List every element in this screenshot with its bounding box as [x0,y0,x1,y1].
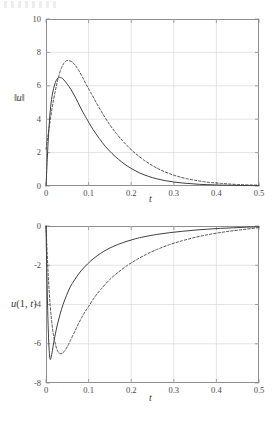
y-tick-label: 4 [19,114,41,124]
curves-top [0,0,277,210]
paren-close: ) [33,298,37,309]
y-tick-label: 10 [19,14,41,24]
x-tick-label: 0.1 [78,188,100,198]
x-tick-label: 0.5 [248,385,270,395]
x-tick-label: 0.3 [163,188,185,198]
x-axis-label-top: t [149,193,152,204]
y-axis-label-bottom: u(1, t) [11,298,37,309]
x-tick-label: 0 [35,385,57,395]
x-tick-label: 0.2 [120,188,142,198]
x-tick-label: 0.3 [163,385,185,395]
chart-panel-bottom: -8-6-4-2000.10.20.30.40.5 u(1, t) t [0,210,277,421]
curve-solid [46,77,259,186]
x-tick-label: 0.4 [205,385,227,395]
x-tick-label: 0 [35,188,57,198]
y-tick-label: 2 [19,147,41,157]
y-tick-label: 8 [19,47,41,57]
x-tick-label: 0.1 [78,385,100,395]
curve-solid [46,226,259,360]
x-tick-label: 0.2 [120,385,142,395]
y-tick-label: 0 [19,221,41,231]
curve-dashed [46,226,259,354]
chart-panel-top: 024681000.10.20.30.40.5 ‖u‖ t [0,0,277,210]
x-axis-label-bottom: t [149,392,152,403]
x-tick-label: 0.4 [205,188,227,198]
y-tick-label: 6 [19,80,41,90]
y-axis-label-top: ‖u‖ [14,92,24,103]
y-tick-label: -2 [19,260,41,270]
curve-dashed [46,61,259,186]
y-tick-label: -6 [19,338,41,348]
x-tick-label: 0.5 [248,188,270,198]
norm-bar-right: ‖ [22,92,24,103]
